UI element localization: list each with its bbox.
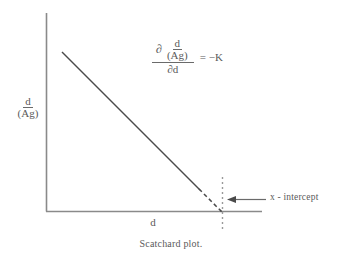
y-axis-label-denominator: (Ag) xyxy=(16,108,41,119)
x-axis-label: d xyxy=(136,216,170,228)
y-axis-label-fraction: d (Ag) xyxy=(16,96,41,119)
equation-right-hand-side: = −K xyxy=(200,51,223,63)
figure-caption: Scatchard plot. xyxy=(0,238,342,249)
equation-inner-denominator: (Ag) xyxy=(165,50,190,61)
equation-numerator: ∂ d (Ag) xyxy=(152,38,194,63)
x-intercept-label: x - intercept xyxy=(270,192,319,202)
partial-symbol-numerator: ∂ xyxy=(156,43,162,56)
y-axis-label: d (Ag) xyxy=(10,96,46,119)
scatchard-plot-figure: d (Ag) d ∂ d (Ag) ∂d = −K x - intercept … xyxy=(0,0,342,261)
slope-equation: ∂ d (Ag) ∂d = −K xyxy=(152,38,223,76)
data-line-dashed-extrapolation xyxy=(199,189,222,212)
x-intercept-arrow xyxy=(227,196,266,203)
equation-inner-fraction: d (Ag) xyxy=(165,38,190,61)
equation-outer-fraction: ∂ d (Ag) ∂d xyxy=(152,38,194,76)
equation-denominator: ∂d xyxy=(163,63,182,76)
